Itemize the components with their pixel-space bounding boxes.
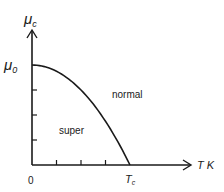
phase-boundary-curve: [32, 65, 130, 165]
y-axis-label: μc: [23, 10, 37, 29]
region-super-label: super: [59, 125, 85, 136]
region-normal-label: normal: [112, 89, 143, 100]
mu0-label: μ0: [3, 56, 17, 75]
phase-diagram: μc μ0 0 Tc T K super normal: [0, 0, 224, 192]
origin-label: 0: [28, 175, 34, 186]
tc-label: Tc: [125, 173, 136, 186]
x-axis-label: T K: [197, 159, 215, 171]
